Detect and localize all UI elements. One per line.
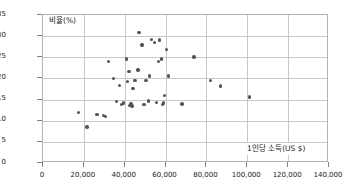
data-point	[153, 41, 156, 44]
data-point	[167, 74, 170, 77]
data-point	[148, 74, 151, 77]
data-point	[140, 43, 143, 46]
data-point	[160, 57, 163, 60]
data-point	[133, 79, 136, 82]
x-axis-tick-label: 140,000	[301, 172, 347, 179]
data-point	[158, 38, 161, 41]
data-point	[115, 100, 118, 103]
data-point	[77, 111, 80, 114]
y-axis-tick-label: 10	[0, 116, 6, 123]
y-axis-tick-mark	[37, 99, 42, 100]
gridline-horizontal	[43, 36, 327, 37]
data-point	[131, 87, 134, 90]
data-point	[85, 125, 88, 128]
data-point	[104, 115, 107, 118]
x-axis-tick-mark	[287, 162, 288, 167]
y-axis-tick-mark	[37, 56, 42, 57]
data-point	[107, 60, 110, 63]
y-axis-tick-mark	[37, 35, 42, 36]
data-point	[137, 31, 140, 34]
y-axis-tick-label: 30	[0, 32, 6, 39]
plot-area	[42, 14, 328, 162]
y-axis-tick-mark	[37, 14, 42, 15]
data-point	[192, 55, 195, 58]
y-axis-tick-label: 0	[0, 159, 6, 166]
gridline-horizontal	[43, 121, 327, 122]
data-point	[155, 101, 158, 104]
x-axis-title: 1인당 소득(US $)	[244, 143, 308, 155]
gridline-horizontal	[43, 57, 327, 58]
data-point	[147, 99, 150, 102]
y-axis-title: 비율(%)	[46, 15, 79, 27]
data-point	[219, 84, 222, 87]
x-axis-tick-mark	[328, 162, 329, 167]
x-axis-tick-mark	[42, 162, 43, 167]
data-point	[162, 101, 165, 104]
x-axis-tick-mark	[205, 162, 206, 167]
y-axis-tick-label: 20	[0, 74, 6, 81]
y-axis-tick-mark	[37, 120, 42, 121]
y-axis-tick-label: 25	[0, 53, 6, 60]
data-point	[130, 104, 133, 107]
gridline-horizontal	[43, 100, 327, 101]
y-axis-tick-label: 15	[0, 95, 6, 102]
data-point	[248, 95, 251, 98]
data-point	[144, 79, 147, 82]
data-point	[142, 103, 145, 106]
data-point	[126, 80, 129, 83]
data-point	[112, 77, 115, 80]
data-point	[118, 84, 121, 87]
data-point	[127, 70, 130, 73]
y-axis-tick-label: 5	[0, 137, 6, 144]
data-point	[136, 68, 139, 71]
y-axis-tick-mark	[37, 77, 42, 78]
gridline-horizontal	[43, 78, 327, 79]
x-axis-tick-mark	[165, 162, 166, 167]
data-point	[180, 102, 183, 105]
x-axis-tick-mark	[124, 162, 125, 167]
data-point	[95, 113, 98, 116]
data-point	[165, 48, 168, 51]
x-axis-tick-mark	[246, 162, 247, 167]
y-axis-tick-label: 35	[0, 11, 6, 18]
data-point	[125, 57, 128, 60]
y-axis-tick-mark	[37, 141, 42, 142]
x-axis-tick-mark	[83, 162, 84, 167]
data-point	[209, 79, 212, 82]
